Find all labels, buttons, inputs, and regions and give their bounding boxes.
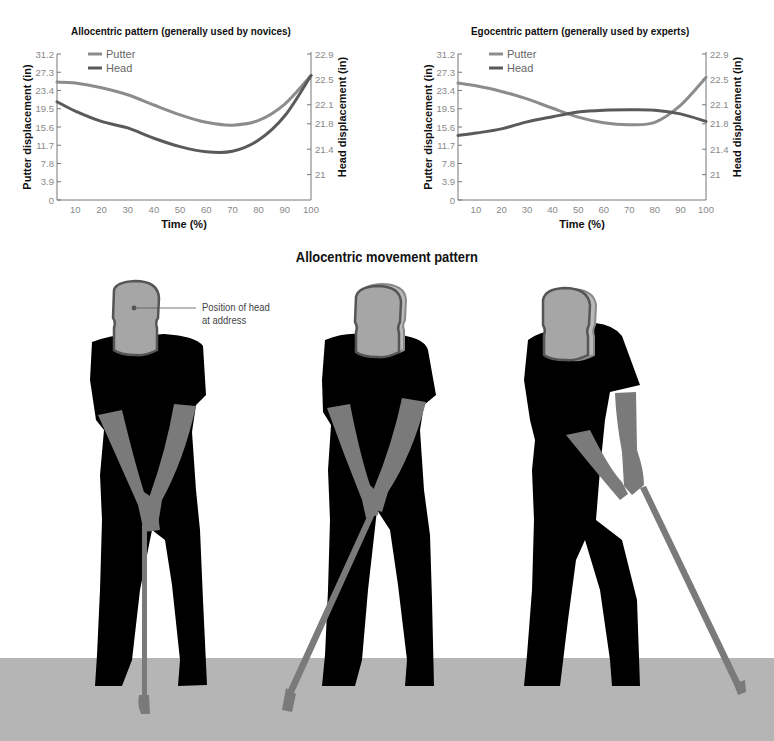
golfer-head-outline bbox=[113, 281, 159, 355]
annotation-line-2: at address bbox=[202, 314, 270, 327]
putter-shaft bbox=[142, 525, 147, 703]
putter-shaft bbox=[640, 486, 744, 693]
golfer-figure-backswing bbox=[282, 284, 436, 712]
head-position-annotation: Position of head at address bbox=[202, 301, 270, 327]
golfer-figure-followthrough bbox=[524, 288, 746, 695]
golfer-figure-address bbox=[90, 281, 207, 714]
annotation-line-1: Position of head bbox=[202, 301, 270, 314]
golfer-body-silhouette bbox=[524, 323, 640, 686]
putter-head bbox=[138, 695, 150, 714]
golfer-illustrations bbox=[0, 0, 774, 741]
golfer-head-outline bbox=[543, 288, 590, 360]
golfer-head-outline bbox=[355, 286, 401, 357]
